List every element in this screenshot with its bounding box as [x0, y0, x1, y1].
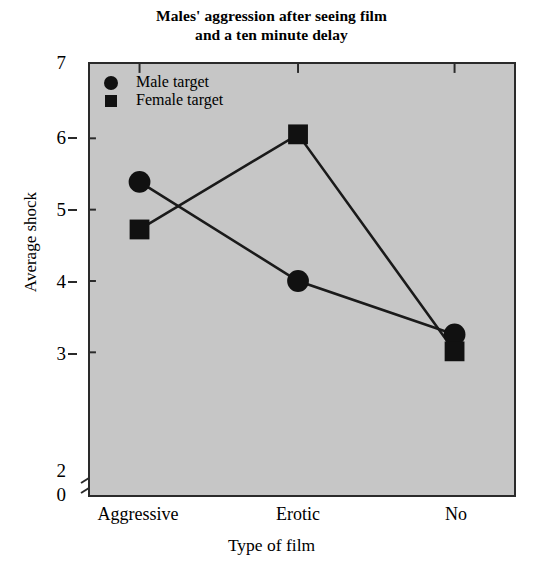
plot-svg: [90, 64, 514, 495]
legend-item-female-target: Female target: [104, 91, 304, 109]
y-tick-marks-inner: [90, 138, 96, 352]
series-line-male-target: [140, 182, 455, 335]
series-markers-male-target: [129, 171, 466, 345]
x-axis: Aggressive Erotic No: [0, 503, 543, 533]
data-point-female-no: [445, 341, 465, 361]
y-tick-label-2: 2: [26, 461, 66, 480]
legend-square-marker-icon: [105, 95, 117, 107]
y-axis-title: Average shock: [21, 162, 41, 322]
legend-circle-marker-icon: [104, 76, 118, 90]
chart-title-line-1: Males' aggression after seeing film: [156, 7, 387, 24]
series-markers-female-target: [130, 124, 465, 361]
data-point-male-aggressive: [129, 171, 151, 193]
x-tick-label-aggressive: Aggressive: [63, 503, 213, 525]
y-tick-label-7: 7: [26, 53, 66, 72]
y-axis-origin-label: 0: [26, 485, 66, 504]
x-tick-label-erotic: Erotic: [223, 503, 373, 525]
chart-figure: Males' aggression after seeing film and …: [0, 0, 543, 567]
y-axis: 7 6 5 4 3 2 0 Average shock: [0, 0, 88, 567]
y-tick-label-3: 3: [26, 344, 66, 363]
y-tick-mark-3: [68, 353, 77, 355]
y-tick-mark-5: [68, 209, 77, 211]
data-point-male-erotic: [287, 270, 309, 292]
data-point-female-erotic: [288, 124, 308, 144]
legend: Male target Female target: [104, 73, 304, 109]
data-point-female-aggressive: [130, 220, 150, 240]
y-tick-mark-6: [68, 137, 77, 139]
y-tick-label-6: 6: [26, 128, 66, 147]
x-axis-title: Type of film: [0, 535, 543, 556]
legend-label-female-target: Female target: [136, 91, 223, 109]
legend-label-male-target: Male target: [136, 73, 209, 91]
x-tick-label-no: No: [381, 503, 531, 525]
x-tick-marks-top: [140, 64, 455, 73]
y-tick-mark-4: [68, 281, 77, 283]
legend-item-male-target: Male target: [104, 73, 304, 91]
plot-area: Male target Female target: [88, 62, 516, 497]
